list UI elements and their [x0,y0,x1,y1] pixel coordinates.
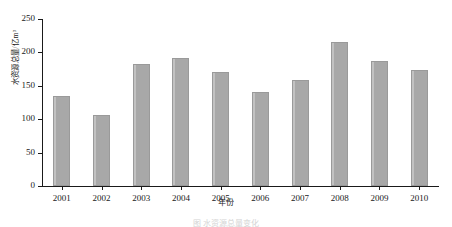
bar [53,96,70,186]
bar [93,115,110,186]
x-tick [62,186,63,190]
bar [172,58,189,186]
y-tick: 50 [38,153,42,154]
bar [411,70,428,186]
y-axis-line [42,19,43,187]
y-tick: 0 [38,186,42,187]
y-tick-label: 250 [22,13,36,24]
x-tick [260,186,261,190]
bar-chart-figure: 水资源总量/亿m³ 050100150200250 20012002200320… [0,0,452,227]
y-axis-title: 水资源总量/亿m³ [9,3,20,113]
x-tick [102,186,103,190]
y-tick-label: 150 [22,80,36,91]
y-tick-label: 0 [31,180,36,191]
y-tick: 100 [38,119,42,120]
bar [252,92,269,186]
x-tick [340,186,341,190]
plot-area: 050100150200250 200120022003200420052006… [42,19,439,186]
bar [133,64,150,186]
x-tick [181,186,182,190]
y-tick-label: 50 [26,147,35,158]
bar [371,61,388,186]
bar [212,72,229,186]
x-tick [221,186,222,190]
bar [292,80,309,186]
y-tick-label: 100 [22,113,36,124]
y-tick-label: 200 [22,46,36,57]
bar [331,42,348,186]
y-tick: 200 [38,52,42,53]
x-tick [300,186,301,190]
x-tick [379,186,380,190]
x-tick [419,186,420,190]
y-tick: 250 [38,19,42,20]
x-axis-title: 年份 [0,196,452,207]
x-tick [141,186,142,190]
figure-caption: 图 水资源总量变化 [0,219,452,227]
y-tick: 150 [38,86,42,87]
